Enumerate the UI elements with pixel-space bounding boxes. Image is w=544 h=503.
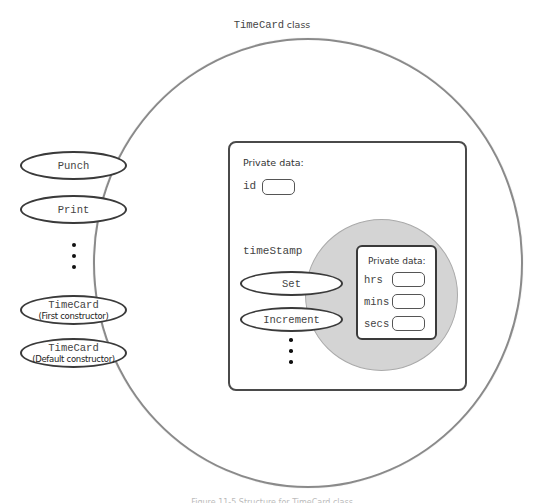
ellipsis-dot-icon <box>289 360 293 364</box>
method-first-constructor[interactable]: TimeCard (First constructor) <box>20 295 127 325</box>
field-hrs-label: hrs <box>364 274 383 286</box>
method-label: Increment <box>263 314 320 326</box>
ellipsis-dot-icon <box>289 349 293 353</box>
field-mins-label: mins <box>364 296 389 308</box>
field-mins-value <box>392 294 425 309</box>
field-secs-label: secs <box>364 318 389 330</box>
method-print[interactable]: Print <box>20 195 127 224</box>
member-object-label: timeStamp <box>243 245 302 257</box>
method-label: Print <box>58 204 90 216</box>
method-punch[interactable]: Punch <box>20 151 127 180</box>
ellipsis-dot-icon <box>289 338 293 342</box>
method-default-constructor[interactable]: TimeCard (Default constructor) <box>20 338 127 368</box>
method-sublabel: (Default constructor) <box>32 354 115 365</box>
ellipsis-dot-icon <box>72 265 76 269</box>
method-label: TimeCard <box>48 299 98 311</box>
class-title: TimeCard class <box>0 19 544 31</box>
field-id-value <box>262 179 295 195</box>
ellipsis-dot-icon <box>72 254 76 258</box>
class-title-word: class <box>287 19 311 30</box>
private-data-label: Private data: <box>243 157 304 168</box>
method-increment[interactable]: Increment <box>240 307 343 332</box>
class-title-code: TimeCard <box>234 19 284 31</box>
field-hrs-value <box>392 272 425 287</box>
ellipsis-dot-icon <box>72 243 76 247</box>
field-id-label: id <box>243 180 256 192</box>
method-sublabel: (First constructor) <box>38 311 108 322</box>
figure-caption: Figure 11-5 Structure for TimeCard class <box>0 496 544 503</box>
method-label: Punch <box>58 160 90 172</box>
method-label: Set <box>282 278 301 290</box>
member-private-data-label: Private data: <box>368 256 426 266</box>
method-label: TimeCard <box>48 342 98 354</box>
method-set[interactable]: Set <box>240 271 343 296</box>
field-secs-value <box>392 316 425 331</box>
